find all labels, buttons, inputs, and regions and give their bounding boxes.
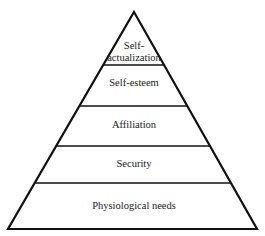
level-self-esteem: Self-esteem [109,77,159,89]
level-label-line1: Self- [107,40,161,52]
level-label-line2: actualization [107,52,161,64]
level-self-actualization: Self- actualization [107,40,161,64]
level-physiological-needs: Physiological needs [92,200,176,212]
pyramid-diagram: Self- actualization Self-esteem Affiliat… [0,0,265,236]
level-security: Security [117,158,152,170]
level-affiliation: Affiliation [112,119,156,131]
